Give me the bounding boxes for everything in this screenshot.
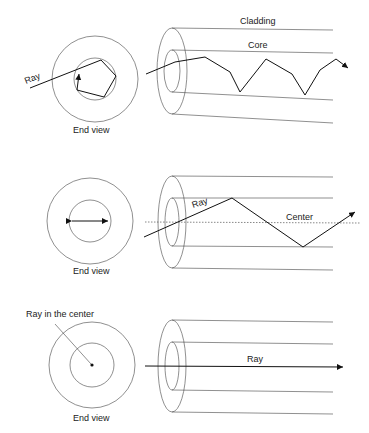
end-view-axial <box>49 322 135 408</box>
core-label: Core <box>248 40 268 50</box>
fiber-meridional <box>144 176 360 270</box>
end-view-skew <box>30 36 138 122</box>
ray-label-meridional: Ray <box>191 195 210 210</box>
center-label: Center <box>286 212 313 222</box>
fiber-axial <box>145 320 343 414</box>
panel-axial-ray: Ray in the center End view Ray <box>26 309 343 423</box>
end-view-label-axial: End view <box>73 413 110 423</box>
end-view-meridional <box>47 178 133 264</box>
cladding-label: Cladding <box>240 16 276 26</box>
ray-label-axial: Ray <box>247 354 264 364</box>
panel-skew-ray: Ray End view Cladding Core <box>23 16 348 135</box>
fiber-ray-diagram: Ray End view Cladding Core End view <box>0 0 369 433</box>
ray-label-skew: Ray <box>23 70 42 85</box>
end-view-label-meridional: End view <box>73 266 110 276</box>
center-point <box>90 363 93 366</box>
end-view-label-skew: End view <box>73 125 110 135</box>
panel-meridional-ray: End view Ray Center <box>47 176 360 276</box>
fiber-skew <box>146 28 348 123</box>
ray-in-center-label: Ray in the center <box>26 309 94 319</box>
